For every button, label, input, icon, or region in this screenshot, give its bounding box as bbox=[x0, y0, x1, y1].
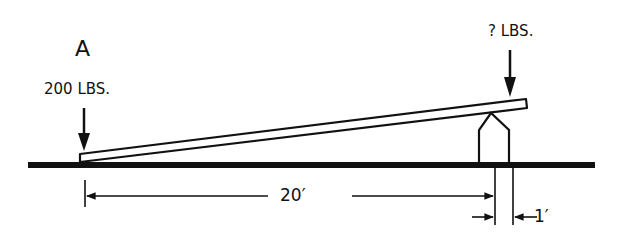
left-load-label: 200 LBS. bbox=[44, 80, 110, 98]
section-label: A bbox=[75, 36, 90, 61]
short-distance-label: 1′ bbox=[534, 206, 549, 226]
long-distance-label: 20′ bbox=[280, 185, 306, 205]
right-load-label: ? LBS. bbox=[488, 22, 533, 40]
fulcrum bbox=[479, 113, 509, 163]
lever-bar bbox=[80, 99, 527, 162]
left-load-arrow bbox=[78, 108, 90, 151]
right-load-arrow bbox=[504, 50, 516, 97]
